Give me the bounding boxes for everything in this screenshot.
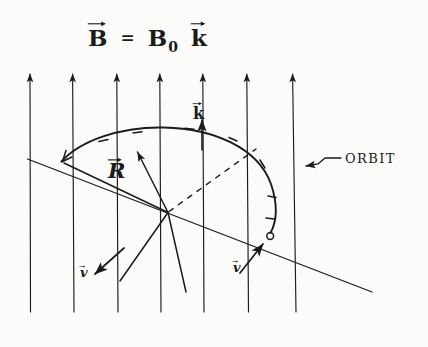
velocity-label-right: v: [233, 259, 241, 274]
k-vector-label: k: [193, 104, 204, 122]
orbit-tick-2: [99, 140, 108, 142]
vector-arrow-overbar-b: [87, 19, 107, 27]
vector-arrow-overbar-k-label: [192, 99, 203, 107]
k-label-vector-wrap: k: [193, 104, 204, 122]
sketch-layer: [0, 0, 428, 347]
orbit-direction-ticks: [63, 128, 277, 219]
orbit-callout-leader: [306, 158, 341, 166]
velocity-vector-right: [240, 244, 263, 273]
equals-sign: =: [117, 27, 138, 47]
vector-arrow-overbar-k: [190, 19, 207, 27]
field-line-7: [293, 74, 296, 312]
field-line-2: [73, 74, 74, 312]
orbit-tick-8: [266, 218, 274, 219]
spoke-lower-center: [168, 213, 186, 293]
dashed-chord-line: [169, 149, 256, 212]
title-equation: B = B0 k: [88, 24, 208, 54]
orbit-tick-5: [229, 138, 237, 142]
vector-arrow-overbar-v-left: [79, 262, 87, 270]
diagram-canvas: B = B0 k k R ORBIT: [0, 0, 428, 347]
magnetic-field-lines: [30, 74, 296, 312]
b-subscript: 0: [168, 39, 179, 55]
field-line-1: [30, 74, 31, 312]
vector-arrow-overbar-r: [107, 155, 124, 163]
orbit-tick-3: [133, 132, 142, 133]
field-line-4: [160, 74, 161, 312]
velocity-vector-left: [95, 248, 124, 274]
field-line-6: [247, 74, 249, 312]
velocity-right-vector-wrap: v: [233, 259, 241, 274]
velocity-label-left: v: [80, 264, 88, 279]
vector-b-symbol: B: [88, 24, 108, 49]
radius-vector-wrap: R: [108, 158, 125, 181]
velocity-left-vector-wrap: v: [80, 264, 88, 279]
orbit-label: ORBIT: [345, 152, 396, 165]
unit-vector-k-symbol: k: [191, 24, 208, 49]
vector-b-letter: B: [88, 24, 108, 51]
unit-vector-k-letter: k: [191, 24, 208, 51]
b-magnitude-letter: B: [148, 24, 168, 51]
radius-label: R: [108, 158, 125, 181]
vector-arrow-overbar-v-right: [232, 257, 240, 265]
orbit-tick-4: [185, 128, 194, 129]
